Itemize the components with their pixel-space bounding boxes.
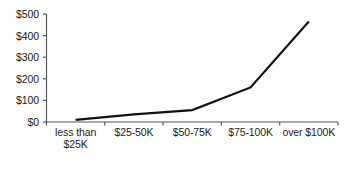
y-tick-label: $100	[0, 95, 39, 106]
y-tick-label: $300	[0, 52, 39, 63]
y-tick-label: $0	[0, 117, 39, 128]
series-polyline	[76, 22, 309, 120]
line-chart-figure: $0$100$200$300$400$500 less than $25K$25…	[0, 0, 348, 170]
y-tick-label: $400	[0, 30, 39, 41]
y-axis	[43, 14, 47, 122]
x-tick-label: $25-50K	[104, 126, 164, 138]
y-tick-label: $500	[0, 9, 39, 20]
x-axis	[47, 122, 339, 126]
y-tick-label: $200	[0, 73, 39, 84]
x-tick-label: less than $25K	[46, 126, 106, 150]
x-tick-label: $75-100K	[221, 126, 281, 138]
x-tick-label: $50-75K	[162, 126, 222, 138]
data-series-line	[76, 22, 309, 120]
x-tick-label: over $100K	[279, 126, 339, 138]
